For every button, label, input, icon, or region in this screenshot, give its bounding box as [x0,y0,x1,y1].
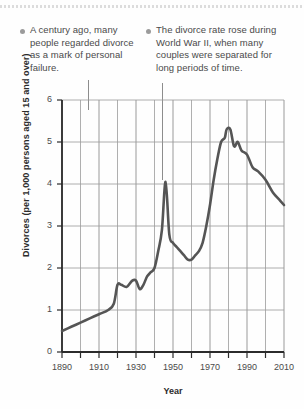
chart-page: A century ago, many people regarded divo… [0,0,304,409]
y-axis-title: Divorces (per 1,000 persons aged 15 and … [21,57,31,257]
x-tick-label: 1950 [153,362,193,372]
y-tick-label: 5 [36,136,52,146]
line-chart: Divorces (per 1,000 persons aged 15 and … [0,0,304,409]
x-tick-label: 2010 [264,362,304,372]
x-tick-label: 1890 [42,362,82,372]
y-tick-label: 3 [36,220,52,230]
x-tick-label: 1970 [190,362,230,372]
y-tick-label: 1 [36,304,52,314]
y-tick-label: 0 [36,346,52,356]
x-tick-label: 1990 [227,362,267,372]
x-tick-label: 1910 [79,362,119,372]
y-tick-label: 6 [36,94,52,104]
x-axis-title: Year [62,386,284,396]
y-tick-label: 4 [36,178,52,188]
x-tick-label: 1930 [116,362,156,372]
y-tick-label: 2 [36,262,52,272]
